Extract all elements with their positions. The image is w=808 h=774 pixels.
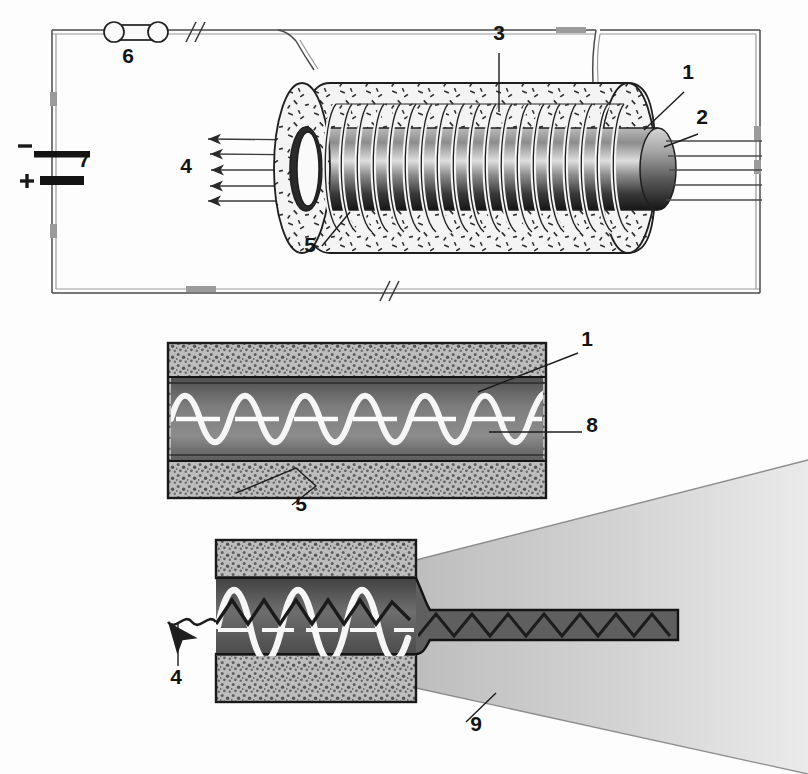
- callout-label-1-top: 1: [682, 60, 694, 83]
- callout-label-6: 6: [122, 44, 134, 67]
- callout-label-4-bottom: 4: [170, 665, 182, 688]
- bottom-cladding-bottom: [216, 654, 416, 702]
- middle-cross-section: [168, 343, 582, 505]
- callout-label-3: 3: [493, 21, 505, 44]
- callout-label-7: 7: [78, 148, 90, 171]
- core-aperture-inner: [297, 132, 319, 206]
- lamp-component[interactable]: [104, 22, 168, 42]
- callout-label-5-bottom: 5: [295, 492, 307, 515]
- callout-label-5-top: 5: [304, 233, 316, 256]
- figure-canvas: 1 2 3 4 5 6 7 1 8 5 4 9: [0, 0, 808, 774]
- diagram-svg: 1 2 3 4 5 6 7 1 8 5 4 9: [0, 0, 808, 774]
- core-end-face: [640, 128, 676, 210]
- callout-label-9: 9: [470, 712, 482, 735]
- callout-label-8: 8: [586, 413, 598, 436]
- callout-label-2: 2: [696, 105, 708, 128]
- bottom-cladding-top: [216, 540, 416, 578]
- callout-label-4-top: 4: [180, 154, 192, 177]
- callout-label-1-mid: 1: [581, 327, 593, 350]
